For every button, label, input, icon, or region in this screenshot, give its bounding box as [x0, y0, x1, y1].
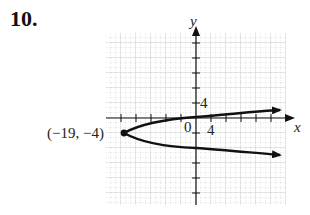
vertex-label: (−19, −4) — [47, 125, 104, 142]
x-axis-label: x — [293, 119, 301, 135]
x-tick-label: 4 — [207, 122, 215, 138]
y-tick-label: 4 — [200, 95, 208, 111]
y-axis-label: y — [188, 13, 197, 29]
parabola-graph: y x 4 4 0 (−19, −4) — [0, 0, 310, 215]
vertex-point — [121, 130, 128, 137]
origin-label: 0 — [184, 119, 192, 135]
